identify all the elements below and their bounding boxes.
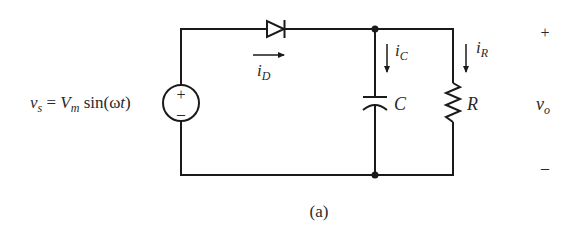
circuit-diagram: + – vs = Vm sin(ωt) iD iC C iR R xyxy=(0,0,583,230)
resistor-label: R xyxy=(466,94,478,114)
source-equation-label: vs = Vm sin(ωt) xyxy=(30,93,131,115)
diode-icon xyxy=(267,21,284,37)
output-plus: + xyxy=(540,24,549,41)
resistor-icon xyxy=(446,83,460,122)
capacitor-label: C xyxy=(394,94,407,114)
top-branch: iD xyxy=(180,20,454,83)
capacitor-current-label: iC xyxy=(395,41,409,63)
source-minus: – xyxy=(176,105,186,122)
resistor-branch: iR R xyxy=(446,28,489,176)
output-voltage-label: vo xyxy=(536,94,550,117)
diode-current-label: iD xyxy=(257,61,271,83)
resistor-current-label: iR xyxy=(476,38,489,60)
left-branch: + – xyxy=(163,29,199,175)
figure-caption: (a) xyxy=(310,202,329,221)
capacitor-branch: iC C xyxy=(363,26,409,179)
source-plus: + xyxy=(176,86,185,103)
output-voltage: + vo – xyxy=(536,24,550,176)
output-minus: – xyxy=(540,159,550,176)
